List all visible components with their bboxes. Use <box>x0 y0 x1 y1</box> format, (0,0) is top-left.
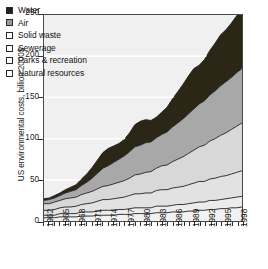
legend-label-air: Air <box>18 19 28 27</box>
x-tick-label-1992: 1992 <box>209 209 217 227</box>
x-tick-mark-1971 <box>92 222 93 226</box>
y-tick-label-150: 150 <box>17 93 39 101</box>
legend-item-water: Water <box>6 4 87 17</box>
legend-label-parks-recreation: Parks & recreation <box>18 56 87 64</box>
legend-label-solid-waste: Solid waste <box>18 31 61 39</box>
x-tick-label-1971: 1971 <box>95 209 103 227</box>
y-tick-label-100: 100 <box>17 134 39 142</box>
x-tick-label-1998: 1998 <box>241 209 249 227</box>
x-tick-label-1977: 1977 <box>128 209 136 227</box>
x-tick-label-1974: 1974 <box>111 209 119 227</box>
x-tick-mark-1989 <box>189 222 190 226</box>
chart-legend: WaterAirSolid wasteSewerageParks & recre… <box>6 4 87 80</box>
legend-swatch-solid-waste-icon <box>6 32 13 39</box>
x-tick-mark-1998 <box>238 222 239 226</box>
legend-label-water: Water <box>18 6 40 14</box>
legend-item-parks-recreation: Parks & recreation <box>6 54 87 67</box>
legend-item-natural-resources: Natural resources <box>6 67 87 80</box>
x-tick-mark-1983 <box>157 222 158 226</box>
legend-swatch-natural-resources-icon <box>6 70 13 77</box>
x-tick-label-1968: 1968 <box>79 209 87 227</box>
chart-figure: US environmental costs, billion 2000$ 05… <box>0 0 268 269</box>
x-tick-label-1989: 1989 <box>193 209 201 227</box>
x-tick-label-1965: 1965 <box>63 209 71 227</box>
x-tick-mark-1995 <box>221 222 222 226</box>
legend-item-air: Air <box>6 17 87 30</box>
x-tick-label-1986: 1986 <box>176 209 184 227</box>
x-tick-mark-1977 <box>124 222 125 226</box>
x-tick-mark-1980 <box>140 222 141 226</box>
x-tick-label-1983: 1983 <box>160 209 168 227</box>
legend-swatch-sewerage-icon <box>6 45 13 52</box>
x-tick-label-1980: 1980 <box>144 209 152 227</box>
x-tick-mark-1962 <box>43 222 44 226</box>
x-tick-label-1995: 1995 <box>225 209 233 227</box>
x-tick-mark-1968 <box>75 222 76 226</box>
legend-swatch-water-icon <box>6 7 13 14</box>
y-tick-label-0: 0 <box>17 217 39 225</box>
x-tick-label-1962: 1962 <box>47 209 55 227</box>
legend-label-natural-resources: Natural resources <box>18 69 84 77</box>
x-tick-mark-1974 <box>108 222 109 226</box>
legend-item-sewerage: Sewerage <box>6 42 87 55</box>
x-tick-mark-1986 <box>173 222 174 226</box>
legend-swatch-parks-recreation-icon <box>6 57 13 64</box>
x-tick-mark-1992 <box>205 222 206 226</box>
x-tick-mark-1965 <box>59 222 60 226</box>
y-tick-label-50: 50 <box>17 176 39 184</box>
x-axis-tick-labels: 1962196519681971197419771980198319861989… <box>43 227 243 269</box>
legend-swatch-air-icon <box>6 19 13 26</box>
legend-label-sewerage: Sewerage <box>18 44 56 52</box>
legend-item-solid-waste: Solid waste <box>6 29 87 42</box>
